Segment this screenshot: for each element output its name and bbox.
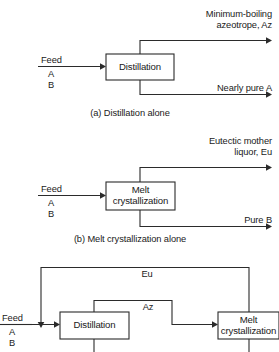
- panel-a-top-product-label-line2: azeotrope, Az: [136, 20, 272, 30]
- panel-b-bottom-product-label: Pure B: [192, 215, 272, 225]
- panel-b-feed-component-b: B: [48, 209, 54, 219]
- panel-b-top-product-arrowhead: [266, 164, 272, 171]
- panel-b-unit-label-line2: crystallization: [104, 195, 177, 206]
- figure-canvas: Minimum-boiling azeotrope, Az Feed A B D…: [0, 0, 279, 352]
- panel-b-feed-label: Feed: [41, 184, 62, 194]
- panel-a-feed-label: Feed: [41, 55, 62, 65]
- panel-a-top-product-arrowhead: [266, 37, 272, 44]
- panel-a-top-product-line: [140, 41, 266, 55]
- panel-c-right-unit-label-line2: crystallization: [215, 325, 279, 336]
- panel-a-bottom-product-label: Nearly pure A: [160, 83, 272, 93]
- panel-b-top-product-label-line2: liquor, Eu: [136, 147, 272, 157]
- panel-a-feed-component-b: B: [48, 80, 54, 90]
- panel-b-top-product-line: [140, 168, 266, 183]
- panel-c-az-label: Az: [118, 302, 178, 312]
- panel-c-feed-component-b: B: [9, 338, 15, 348]
- panel-b-top-product-label-line1: Eutectic mother: [136, 136, 272, 146]
- panel-c-feed-component-a: A: [9, 327, 15, 337]
- panel-a-top-product-label-line1: Minimum-boiling: [136, 9, 272, 19]
- panel-c-right-unit-label-line1: Melt: [218, 314, 279, 325]
- flow-diagram-svg: [0, 0, 279, 352]
- panel-c-left-unit-label: Distillation: [60, 319, 129, 330]
- panel-b-unit-label-line1: Melt: [106, 184, 175, 195]
- panel-a-feed-component-a: A: [48, 69, 54, 79]
- panel-b-feed-component-a: A: [48, 198, 54, 208]
- panel-a-caption: (a) Distillation alone: [30, 108, 230, 119]
- panel-c-eu-label: Eu: [117, 269, 177, 279]
- panel-c-feed-label: Feed: [2, 313, 23, 323]
- panel-a-unit-label: Distillation: [106, 61, 174, 72]
- panel-b-caption: (b) Melt crystallization alone: [20, 234, 240, 245]
